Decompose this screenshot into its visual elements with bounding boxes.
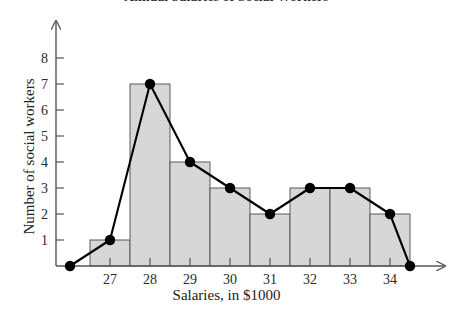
y-axis-title: Number of social workers xyxy=(21,42,38,272)
x-tick-label-34: 34 xyxy=(383,272,397,287)
x-tick-label-27: 27 xyxy=(103,272,117,287)
x-axis-title: Salaries, in $1000 xyxy=(0,287,453,304)
bar-29 xyxy=(170,162,210,266)
bar-32 xyxy=(290,188,330,266)
x-tick-label-30: 30 xyxy=(223,272,237,287)
y-tick-labels-group: 8 7 6 5 4 3 2 1 xyxy=(41,51,48,248)
data-point-35 xyxy=(405,261,415,271)
y-tick-label-5: 5 xyxy=(41,129,48,144)
data-point-30 xyxy=(225,183,235,193)
data-point-32 xyxy=(305,183,315,193)
x-tick-labels-group: 27 28 29 30 31 32 33 34 xyxy=(103,272,397,287)
y-tick-label-3: 3 xyxy=(41,181,48,196)
x-tick-label-29: 29 xyxy=(183,272,197,287)
data-point-26 xyxy=(65,261,75,271)
data-point-28 xyxy=(145,79,155,89)
x-tick-label-32: 32 xyxy=(303,272,317,287)
histogram-figure: Annual Salaries of Social Workers xyxy=(0,0,453,315)
x-tick-label-28: 28 xyxy=(143,272,157,287)
data-point-31 xyxy=(265,209,275,219)
y-tick-label-2: 2 xyxy=(41,207,48,222)
data-point-27 xyxy=(105,235,115,245)
y-tick-label-1: 1 xyxy=(41,233,48,248)
data-point-33 xyxy=(345,183,355,193)
x-tick-label-31: 31 xyxy=(263,272,277,287)
x-tick-label-33: 33 xyxy=(343,272,357,287)
y-ticks-group xyxy=(56,58,64,240)
y-tick-label-7: 7 xyxy=(41,77,48,92)
bar-33 xyxy=(330,188,370,266)
y-tick-label-4: 4 xyxy=(41,155,48,170)
y-tick-label-8: 8 xyxy=(41,51,48,66)
data-point-29 xyxy=(185,157,195,167)
data-point-34 xyxy=(385,209,395,219)
bar-30 xyxy=(210,188,250,266)
bars-group xyxy=(90,84,410,266)
chart-canvas: 8 7 6 5 4 3 2 1 27 28 29 30 31 32 xyxy=(0,0,453,315)
y-tick-label-6: 6 xyxy=(41,103,48,118)
